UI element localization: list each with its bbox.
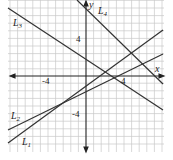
- x-tick-pos4: 4: [121, 76, 126, 86]
- coordinate-plane: y x -4 4 4 -4 L4 L3 L2 L1: [0, 0, 173, 160]
- y-tick-pos4: 4: [76, 34, 81, 44]
- y-tick-neg4: -4: [72, 109, 80, 119]
- x-tick-neg4: -4: [42, 76, 50, 86]
- y-axis-label: y: [88, 0, 94, 10]
- x-axis-label: x: [154, 63, 160, 74]
